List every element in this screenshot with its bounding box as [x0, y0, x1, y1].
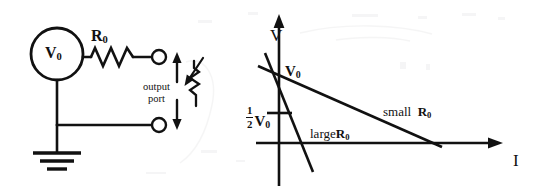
terminal-top-icon: [152, 50, 166, 64]
figure-root: V0 R0 outputport V I V0 12V0 small R0 la…: [0, 0, 533, 191]
output-port-label: outputport: [143, 81, 170, 105]
zigzag-resistor-icon: [91, 48, 133, 66]
large-r0-annotation: largeR0: [310, 127, 349, 140]
port-span-arrows-icon: [172, 52, 181, 130]
resistor-label: R0: [91, 28, 108, 44]
variable-resistor-icon: [185, 58, 204, 106]
small-r0-annotation: small R0: [383, 105, 431, 118]
i-axis-arrowhead: [488, 137, 503, 148]
v-axis-label: V: [270, 27, 282, 44]
terminal-bottom-icon: [152, 118, 166, 132]
figure-drawing: [0, 0, 533, 191]
v0-intercept-label: V0: [285, 64, 301, 79]
i-axis-label: I: [513, 152, 519, 169]
source-voltage-label: V0: [45, 45, 62, 61]
one-half-fraction: 12: [246, 105, 253, 130]
half-v0-intercept-label: 12V0: [246, 104, 270, 129]
ground-icon: [33, 153, 81, 169]
graph-axes: [256, 14, 503, 186]
scan-speckles: [146, 12, 505, 174]
